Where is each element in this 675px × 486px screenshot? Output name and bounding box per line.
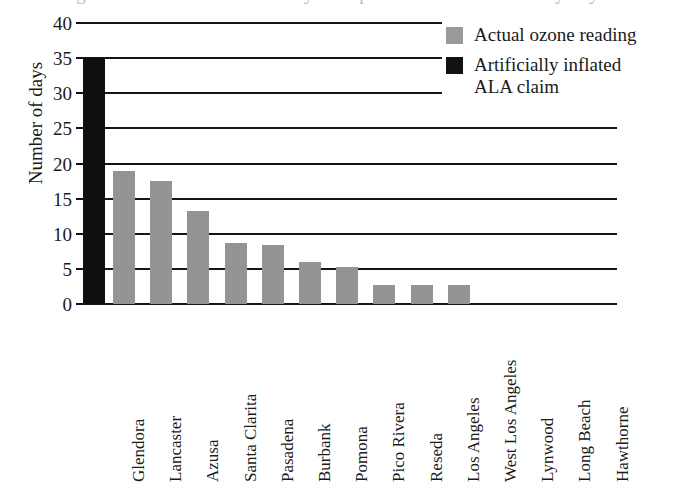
cut-off-title: Figure 1. Ozone exceedance days compared…: [0, 0, 675, 12]
x-tick-label: Pasadena: [279, 419, 296, 482]
bar-actual-los-angeles: [448, 285, 470, 304]
bar-actual-pasadena: [262, 245, 284, 304]
x-tick-label: Lynwood: [539, 418, 556, 482]
ozone-bar-chart-figure: Figure 1. Ozone exceedance days compared…: [0, 0, 675, 486]
y-tick-mark: [76, 92, 83, 94]
legend-label-line: Actual ozone reading: [474, 24, 636, 45]
black-swatch-icon: [446, 57, 463, 74]
bar-actual-lancaster: [150, 181, 172, 304]
legend-label-actual: Actual ozone reading: [474, 24, 636, 45]
x-tick-label: Reseda: [428, 433, 445, 482]
y-tick-mark: [76, 163, 83, 165]
bar-inflated-ala-claim: [83, 58, 105, 304]
bar-actual-pomona: [336, 267, 358, 304]
y-tick-label: 5: [32, 260, 72, 279]
y-tick-label: 10: [32, 225, 72, 244]
figure-title-text: Figure 1. Ozone exceedance days compared…: [60, 0, 599, 5]
legend-item-artificially-inflated-ala-claim: Artificially inflated ALA claim: [446, 54, 671, 97]
legend-label-inflated: Artificially inflated ALA claim: [474, 54, 621, 97]
gridline: [83, 92, 442, 94]
y-tick-mark: [76, 233, 83, 235]
y-tick-label: 40: [32, 14, 72, 33]
x-tick-label: Glendora: [130, 419, 147, 482]
bar-actual-pico-rivera: [373, 285, 395, 304]
y-tick-label: 30: [32, 84, 72, 103]
y-tick-label: 0: [32, 295, 72, 314]
gridline: [83, 127, 617, 129]
x-tick-label: Burbank: [316, 423, 333, 482]
legend-label-line: ALA claim: [474, 76, 621, 97]
y-tick-mark: [76, 303, 83, 305]
legend-item-actual-ozone-reading: Actual ozone reading: [446, 24, 671, 45]
gridline: [83, 22, 442, 24]
y-tick-mark: [76, 198, 83, 200]
y-tick-mark: [76, 127, 83, 129]
y-tick-mark: [76, 57, 83, 59]
x-axis-label-group: GlendoraLancasterAzusaSanta ClaritaPasad…: [83, 310, 643, 486]
gridline: [83, 163, 617, 165]
x-tick-label: Los Angeles: [465, 397, 482, 482]
x-tick-label: Long Beach: [576, 399, 593, 482]
x-tick-label: Santa Clarita: [242, 394, 259, 482]
x-tick-label: Pomona: [353, 426, 370, 482]
legend-label-line: Artificially inflated: [474, 54, 621, 75]
bar-actual-santa-clarita: [225, 243, 247, 304]
y-tick-mark: [76, 268, 83, 270]
gridline: [83, 57, 442, 59]
x-tick-label: Pico Rivera: [390, 402, 407, 482]
x-tick-label: Azusa: [204, 440, 221, 482]
y-tick-label: 25: [32, 119, 72, 138]
x-tick-label: Lancaster: [167, 416, 184, 482]
bar-actual-burbank: [299, 262, 321, 304]
y-tick-label: 15: [32, 190, 72, 209]
y-tick-label: 20: [32, 155, 72, 174]
x-tick-label: Hawthorne: [614, 406, 631, 482]
gray-swatch-icon: [446, 27, 463, 44]
x-tick-label: West Los Angeles: [502, 360, 519, 482]
bar-actual-azusa: [187, 211, 209, 304]
bar-actual-reseda: [411, 285, 433, 304]
bar-actual-glendora: [113, 171, 135, 304]
y-tick-label: 35: [32, 49, 72, 68]
y-tick-mark: [76, 22, 83, 24]
chart-legend: Actual ozone reading Artificially inflat…: [446, 24, 671, 106]
